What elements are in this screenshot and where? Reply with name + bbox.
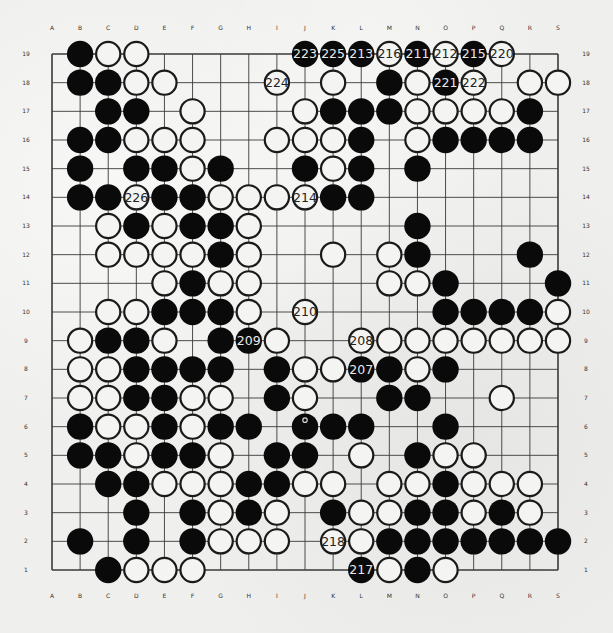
white-stone[interactable]: 218 — [321, 529, 345, 553]
black-stone[interactable] — [151, 184, 177, 210]
black-stone[interactable] — [460, 127, 486, 153]
black-stone[interactable] — [179, 184, 205, 210]
black-stone[interactable] — [123, 327, 149, 353]
black-stone[interactable] — [517, 299, 543, 325]
white-stone[interactable] — [462, 472, 486, 496]
white-stone[interactable] — [180, 243, 204, 267]
black-stone[interactable] — [292, 155, 318, 181]
black-stone[interactable] — [432, 299, 458, 325]
white-stone[interactable] — [124, 443, 148, 467]
white-stone[interactable] — [96, 42, 120, 66]
black-stone[interactable] — [264, 385, 290, 411]
black-stone[interactable] — [404, 385, 430, 411]
white-stone[interactable]: 208 — [349, 329, 373, 353]
black-stone[interactable] — [207, 413, 233, 439]
black-stone[interactable] — [179, 270, 205, 296]
white-stone[interactable] — [405, 71, 429, 95]
black-stone[interactable] — [95, 442, 121, 468]
white-stone[interactable] — [462, 329, 486, 353]
white-stone[interactable] — [96, 415, 120, 439]
white-stone[interactable] — [490, 472, 514, 496]
white-stone[interactable] — [293, 99, 317, 123]
white-stone[interactable] — [265, 329, 289, 353]
black-stone[interactable]: 221 — [432, 69, 458, 95]
white-stone[interactable] — [124, 243, 148, 267]
black-stone[interactable] — [236, 413, 262, 439]
white-stone[interactable] — [518, 472, 542, 496]
white-stone[interactable] — [265, 529, 289, 553]
white-stone[interactable] — [265, 185, 289, 209]
white-stone[interactable] — [433, 558, 457, 582]
black-stone[interactable] — [67, 184, 93, 210]
white-stone[interactable] — [546, 71, 570, 95]
white-stone[interactable] — [237, 243, 261, 267]
black-stone[interactable] — [489, 127, 515, 153]
black-stone[interactable]: 225 — [320, 41, 346, 67]
white-stone[interactable] — [209, 271, 233, 295]
black-stone[interactable] — [179, 356, 205, 382]
black-stone[interactable] — [207, 356, 233, 382]
black-stone[interactable]: 223 — [292, 41, 318, 67]
white-stone[interactable] — [265, 128, 289, 152]
black-stone[interactable] — [95, 557, 121, 583]
white-stone[interactable] — [405, 357, 429, 381]
white-stone[interactable]: 212 — [433, 42, 457, 66]
black-stone[interactable] — [432, 413, 458, 439]
white-stone[interactable] — [237, 214, 261, 238]
white-stone[interactable] — [349, 443, 373, 467]
white-stone[interactable] — [209, 185, 233, 209]
go-board-svg[interactable]: AABBCCDDEEFFGGHHIIJJKKLLMMNNOOPPQQRRSS19… — [0, 0, 613, 633]
black-stone[interactable] — [348, 184, 374, 210]
white-stone[interactable] — [124, 128, 148, 152]
white-stone[interactable] — [180, 128, 204, 152]
black-stone[interactable] — [264, 471, 290, 497]
white-stone[interactable]: 216 — [377, 42, 401, 66]
white-stone[interactable]: 210 — [293, 300, 317, 324]
white-stone[interactable] — [68, 357, 92, 381]
white-stone[interactable] — [180, 415, 204, 439]
black-stone[interactable] — [404, 241, 430, 267]
black-stone[interactable] — [207, 299, 233, 325]
black-stone[interactable] — [376, 356, 402, 382]
black-stone[interactable] — [123, 499, 149, 525]
white-stone[interactable] — [321, 71, 345, 95]
white-stone[interactable] — [293, 357, 317, 381]
white-stone[interactable] — [377, 501, 401, 525]
black-stone[interactable] — [404, 442, 430, 468]
black-stone[interactable]: 207 — [348, 356, 374, 382]
white-stone[interactable] — [152, 71, 176, 95]
black-stone[interactable] — [123, 155, 149, 181]
black-stone[interactable] — [432, 127, 458, 153]
black-stone[interactable] — [404, 557, 430, 583]
white-stone[interactable] — [209, 529, 233, 553]
white-stone[interactable] — [96, 214, 120, 238]
white-stone[interactable] — [321, 157, 345, 181]
white-stone[interactable] — [405, 329, 429, 353]
white-stone[interactable] — [349, 501, 373, 525]
white-stone[interactable] — [180, 99, 204, 123]
black-stone[interactable] — [320, 499, 346, 525]
white-stone[interactable] — [546, 329, 570, 353]
go-board[interactable]: AABBCCDDEEFFGGHHIIJJKKLLMMNNOOPPQQRRSS19… — [0, 0, 613, 633]
black-stone[interactable] — [264, 356, 290, 382]
black-stone[interactable] — [95, 471, 121, 497]
black-stone[interactable] — [348, 98, 374, 124]
black-stone[interactable] — [489, 299, 515, 325]
black-stone[interactable] — [151, 155, 177, 181]
white-stone[interactable]: 220 — [490, 42, 514, 66]
white-stone[interactable] — [293, 386, 317, 410]
white-stone[interactable] — [96, 357, 120, 381]
white-stone[interactable] — [349, 529, 373, 553]
black-stone[interactable] — [179, 528, 205, 554]
black-stone[interactable]: 215 — [460, 41, 486, 67]
white-stone[interactable] — [377, 243, 401, 267]
white-stone[interactable] — [180, 157, 204, 181]
black-stone[interactable] — [207, 213, 233, 239]
white-stone[interactable] — [518, 329, 542, 353]
black-stone[interactable] — [517, 127, 543, 153]
white-stone[interactable]: 222 — [462, 71, 486, 95]
white-stone[interactable] — [433, 329, 457, 353]
black-stone[interactable] — [320, 98, 346, 124]
white-stone[interactable] — [124, 300, 148, 324]
white-stone[interactable] — [96, 243, 120, 267]
